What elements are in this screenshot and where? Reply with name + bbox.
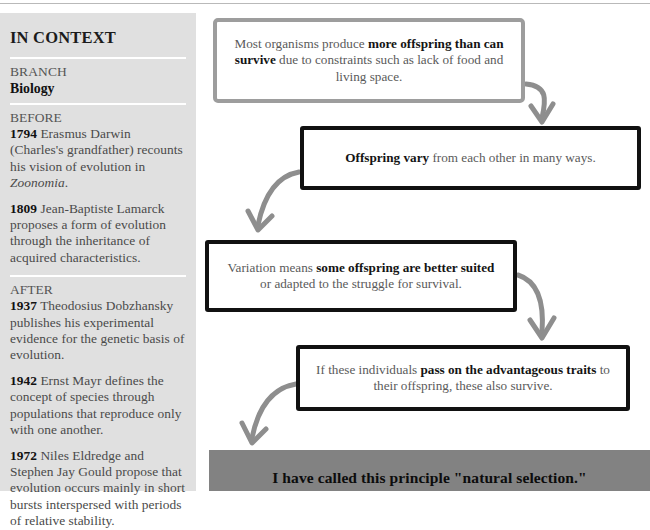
divider — [10, 57, 186, 59]
banner-text: I have called this principle "natural se… — [272, 455, 586, 487]
entry-text-tail: . — [65, 175, 68, 190]
branch-value: Biology — [10, 80, 186, 97]
flow-arrow-3 — [518, 275, 554, 338]
text-bold: some offspring are better suited — [316, 260, 494, 275]
after-heading: AFTER — [10, 282, 186, 298]
natural-selection-quote-banner: I have called this principle "natural se… — [209, 450, 650, 491]
entry-text: Niles Eldredge and Stephen Jay Gould pro… — [10, 448, 185, 529]
flow-arrow-1 — [526, 84, 553, 122]
text-plain: Variation means — [228, 260, 317, 275]
flow-box-4-text: If these individuals pass on the advanta… — [314, 362, 612, 395]
entry-year: 1972 — [10, 448, 37, 463]
page-title: IN CONTEXT — [10, 28, 186, 48]
divider — [10, 103, 186, 105]
text-bold: Offspring vary — [345, 150, 429, 165]
entry-year: 1942 — [10, 373, 37, 388]
in-context-sidebar: IN CONTEXT BRANCH Biology BEFORE 1794 Er… — [0, 13, 196, 491]
entry-year: 1809 — [10, 201, 37, 216]
divider — [10, 275, 186, 277]
entry-italic: Zoonomia — [10, 175, 65, 190]
flow-box-1: Most organisms produce more offspring th… — [213, 18, 525, 103]
flow-arrow-2 — [248, 172, 299, 230]
before-heading: BEFORE — [10, 110, 186, 126]
text-plain: If these individuals — [316, 362, 420, 377]
flow-box-3: Variation means some offspring are bette… — [205, 240, 517, 312]
flow-box-1-text: Most organisms produce more offspring th… — [231, 36, 507, 86]
text-plain: from each other in many ways. — [429, 150, 596, 165]
text-plain: due to constraints such as lack of food … — [276, 52, 503, 84]
entry-year: 1794 — [10, 126, 37, 141]
flow-box-4: If these individuals pass on the advanta… — [296, 345, 630, 411]
text-plain: Most organisms produce — [234, 36, 367, 51]
timeline-entry: 1942 Ernst Mayr defines the concept of s… — [10, 373, 186, 439]
natural-selection-flowchart: Most organisms produce more offspring th… — [196, 0, 650, 491]
branch-label: BRANCH — [10, 64, 186, 80]
timeline-entry: 1794 Erasmus Darwin (Charles's grandfath… — [10, 126, 186, 192]
flow-arrow-4 — [242, 384, 296, 443]
timeline-entry: 1972 Niles Eldredge and Stephen Jay Goul… — [10, 448, 186, 530]
text-bold: pass on the advantageous traits — [420, 362, 596, 377]
flow-box-2: Offspring vary from each other in many w… — [300, 126, 641, 190]
entry-year: 1937 — [10, 298, 37, 313]
timeline-entry: 1937 Theodosius Dobzhansky publishes his… — [10, 298, 186, 364]
entry-text: Theodosius Dobzhansky publishes his expe… — [10, 298, 185, 362]
timeline-entry: 1809 Jean-Baptiste Lamarck proposes a fo… — [10, 201, 186, 267]
flow-box-2-text: Offspring vary from each other in many w… — [345, 150, 596, 167]
text-plain: or adapted to the struggle for survival. — [260, 276, 462, 291]
flow-box-3-text: Variation means some offspring are bette… — [223, 260, 499, 293]
